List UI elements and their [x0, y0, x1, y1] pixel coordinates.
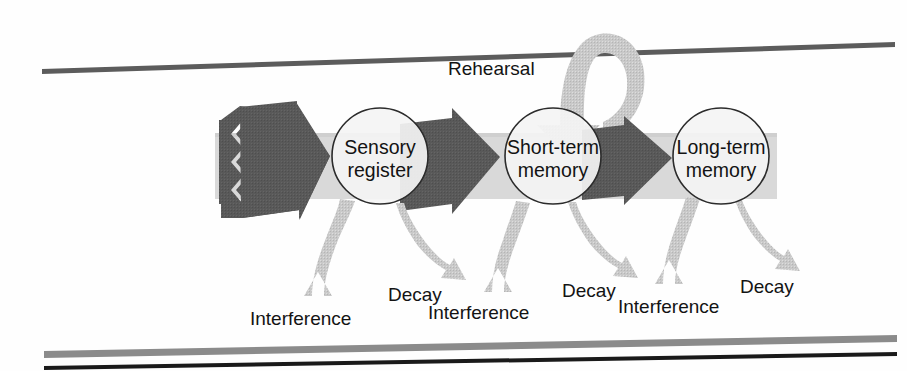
node-label-long-term-memory-line2: memory — [686, 159, 757, 181]
node-long-term-memory: Long-term memory — [673, 108, 769, 204]
interference-label-short: Interference — [428, 302, 529, 323]
decay-label-short: Decay — [562, 280, 616, 301]
node-sensory-register: Sensory register — [332, 108, 428, 204]
rehearsal-label: Rehearsal — [448, 58, 535, 79]
node-label-sensory-register-line1: Sensory — [344, 136, 416, 158]
node-label-short-term-memory-line2: memory — [518, 159, 589, 181]
node-label-short-term-memory-line1: Short-term — [507, 136, 599, 158]
node-label-long-term-memory-line1: Long-term — [677, 136, 766, 158]
diagram-canvas: Rehearsal Interference Decay — [0, 0, 907, 371]
memory-model-figure: Rehearsal Interference Decay — [0, 0, 907, 371]
interference-label-sensory: Interference — [250, 308, 351, 329]
node-short-term-memory: Short-term memory — [505, 108, 601, 204]
decay-label-long: Decay — [740, 276, 794, 297]
interference-label-long: Interference — [618, 296, 719, 317]
node-label-sensory-register-line2: register — [347, 159, 413, 181]
